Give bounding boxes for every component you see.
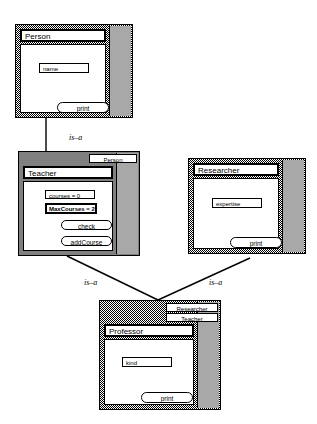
professor-superclass-tab-teacher[interactable]: Teacher [166,313,218,322]
researcher-body: expertise print [193,178,279,249]
researcher-inner: Researcher expertise print [193,163,279,249]
teacher-method-check[interactable]: check [61,220,112,230]
class-box-researcher[interactable]: Researcher expertise print [188,158,306,254]
researcher-shadow-panel [282,160,304,252]
diagram-canvas: is–a is–a is–a Person name print Person … [0,0,317,424]
teacher-attribute-courses[interactable]: courses = 0 [45,190,95,199]
teacher-attribute-maxcourses[interactable]: MaxCourses = 2 [45,203,97,214]
person-body: name print [20,44,106,113]
researcher-method-print[interactable]: print [230,237,282,248]
researcher-title: Researcher [193,163,279,176]
person-inner: Person name print [20,29,106,113]
professor-attribute-kind[interactable]: kind [122,357,172,367]
teacher-method-addcourse[interactable]: addCourse [61,236,112,246]
person-title: Person [20,29,106,42]
edge-teacher-professor [67,256,158,300]
professor-inner: Professor kind print [104,324,194,405]
teacher-body: courses = 0 MaxCourses = 2 check addCour… [23,181,113,251]
professor-superclass-tab-researcher[interactable]: Researcher [166,303,218,312]
class-box-person[interactable]: Person name print [15,24,133,118]
class-box-professor[interactable]: Researcher Teacher Professor kind print [99,300,221,410]
professor-body: kind print [104,339,194,405]
class-box-teacher[interactable]: Person Teacher courses = 0 MaxCourses = … [18,151,140,256]
person-method-print[interactable]: print [57,102,109,113]
person-attribute-name[interactable]: name [39,63,89,73]
professor-title: Professor [104,324,194,337]
edge-label-teacher-professor: is–a [84,278,97,287]
teacher-inner: Teacher courses = 0 MaxCourses = 2 check… [23,166,113,251]
person-shadow-panel [109,26,131,116]
teacher-title: Teacher [23,166,113,179]
edge-researcher-professor [158,258,250,300]
edge-label-person-teacher: is–a [69,133,82,142]
researcher-attribute-expertise[interactable]: expertise [212,198,262,208]
teacher-superclass-tab-person[interactable]: Person [89,154,137,163]
edge-label-researcher-professor: is–a [209,278,222,287]
teacher-shadow-panel [116,153,138,254]
professor-method-print[interactable]: print [141,392,193,403]
